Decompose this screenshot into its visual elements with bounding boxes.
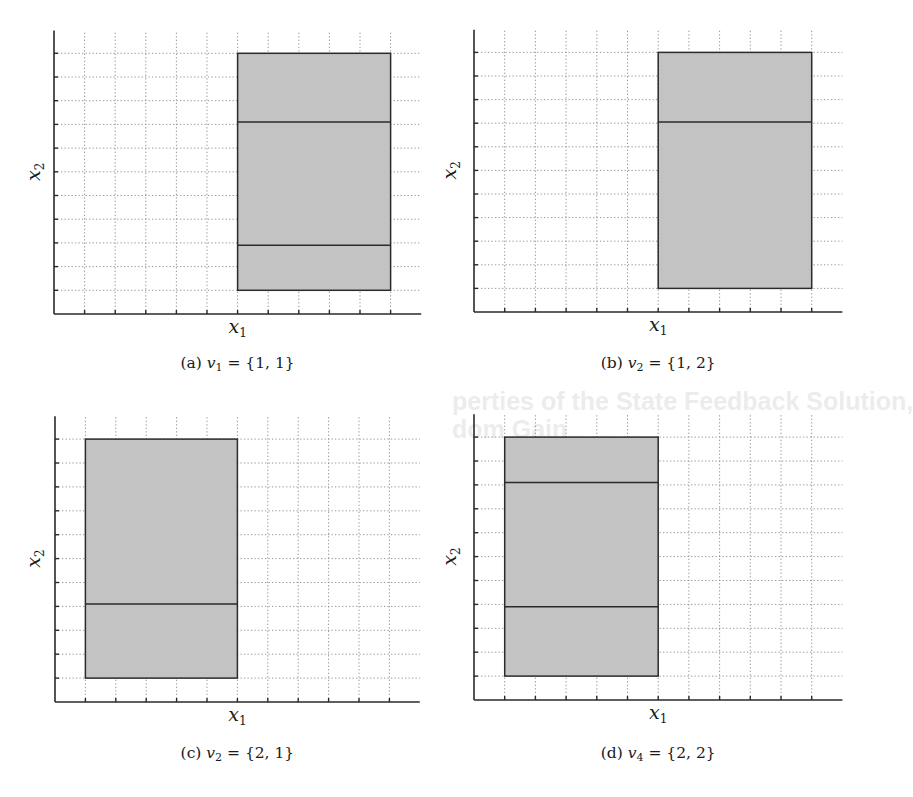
caption-label: (d) <box>601 744 628 762</box>
x-axis-label-symbol: x <box>228 703 239 725</box>
y-axis-label-subscript: 2 <box>33 549 47 557</box>
caption-variable: v <box>206 744 215 762</box>
x-axis-label-symbol: x <box>228 315 239 337</box>
caption-variable-subscript: 2 <box>636 361 643 374</box>
x-axis-label-subscript: 1 <box>239 714 247 728</box>
caption-variable: v <box>628 354 637 372</box>
caption-label: (b) <box>601 354 628 372</box>
critical-region <box>85 439 237 678</box>
caption-variable-subscript: 1 <box>216 361 223 374</box>
y-axis-label: x2 <box>438 161 463 179</box>
caption-value: = {2, 2} <box>643 744 715 762</box>
caption-variable-subscript: 4 <box>636 751 643 764</box>
panel-d: x1x2(d) v4 = {2, 2} <box>438 414 842 764</box>
y-axis-label: x2 <box>22 549 47 567</box>
caption-label: (c) <box>181 744 207 762</box>
x-axis-label: x1 <box>228 703 246 728</box>
panel-b: x1x2(b) v2 = {1, 2} <box>438 30 842 374</box>
y-axis-label-symbol: x <box>22 557 44 568</box>
caption-variable: v <box>207 354 216 372</box>
panel-a: x1x2(a) v1 = {1, 1} <box>22 31 421 374</box>
critical-region <box>238 53 391 290</box>
caption-variable: v <box>628 744 637 762</box>
subfigure-caption: (b) v2 = {1, 2} <box>601 354 716 374</box>
caption-value: = {1, 2} <box>643 354 715 372</box>
y-axis-label-subscript: 2 <box>449 161 463 169</box>
critical-region <box>505 437 659 676</box>
y-axis-label: x2 <box>22 163 47 181</box>
y-axis-label-symbol: x <box>438 555 460 566</box>
caption-variable-subscript: 2 <box>215 751 222 764</box>
caption-value: = {2, 1} <box>222 744 294 762</box>
panel-c: x1x2(c) v2 = {2, 1} <box>22 416 420 764</box>
y-axis-label: x2 <box>438 547 463 565</box>
subfigure-caption: (c) v2 = {2, 1} <box>181 744 295 764</box>
x-axis-label-subscript: 1 <box>660 712 668 726</box>
x-axis-label-subscript: 1 <box>239 326 247 340</box>
subfigure-caption: (d) v4 = {2, 2} <box>601 744 716 764</box>
y-axis-label-symbol: x <box>438 169 460 180</box>
caption-label: (a) <box>181 354 207 372</box>
caption-value: = {1, 1} <box>223 354 295 372</box>
x-axis-label: x1 <box>649 313 667 338</box>
critical-region <box>658 52 812 288</box>
x-axis-label-symbol: x <box>649 313 660 335</box>
x-axis-label: x1 <box>228 315 246 340</box>
x-axis-label-symbol: x <box>649 701 660 723</box>
y-axis-label-symbol: x <box>22 170 44 181</box>
y-axis-label-subscript: 2 <box>449 547 463 555</box>
subfigure-caption: (a) v1 = {1, 1} <box>181 354 295 374</box>
x-axis-label-subscript: 1 <box>660 324 668 338</box>
x-axis-label: x1 <box>649 701 667 726</box>
y-axis-label-subscript: 2 <box>33 163 47 171</box>
